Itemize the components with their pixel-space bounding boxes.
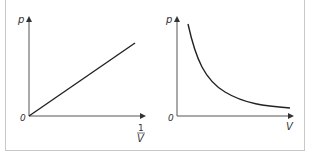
right-origin-label: 0 [168, 113, 174, 123]
right-x-label: V [286, 121, 294, 132]
left-origin-label: 0 [20, 113, 26, 123]
left-x-label-denominator: V [137, 133, 145, 144]
left-y-label: p [17, 14, 24, 25]
left-linear-curve [29, 43, 135, 116]
right-hyperbola-curve [188, 24, 290, 108]
left-graph: p 0 1 V [17, 14, 145, 144]
right-graph: p 0 V [165, 14, 294, 132]
figure-canvas: p 0 1 V p 0 V [0, 0, 310, 154]
left-x-label-numerator: 1 [138, 123, 144, 133]
right-y-label: p [165, 14, 172, 25]
